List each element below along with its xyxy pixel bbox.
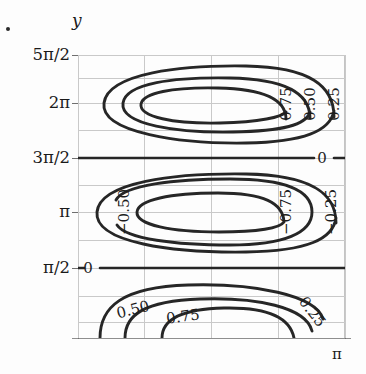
grid-line-vertical <box>345 55 346 338</box>
contour-label-middle-negative-lobe: −0.50 <box>117 189 132 235</box>
y-tick-label: 5π/2 <box>33 47 70 64</box>
y-tick-label: π/2 <box>43 260 70 277</box>
contour-lower-0.50 <box>125 299 312 338</box>
contour-label-zero: 0 <box>83 261 93 276</box>
contour-middle-neg0.25 <box>97 174 336 252</box>
y-axis-title: y <box>72 12 82 29</box>
contour-label-zero: 0 <box>317 151 327 166</box>
contour-label-lower-positive-lobe: 0.75 <box>165 307 200 327</box>
contour-label-upper-positive-lobe: 0.25 <box>327 87 342 120</box>
contour-upper-0.75 <box>141 88 286 123</box>
y-tick-label: π <box>59 204 70 221</box>
plot-area: 0.750.500.25−0.50−0.75−0.250.500.750.250… <box>78 55 345 338</box>
contour-label-middle-negative-lobe: −0.75 <box>279 189 294 235</box>
y-tick-label: 2π <box>49 95 70 112</box>
x-axis-spine <box>72 338 351 339</box>
contour-label-upper-positive-lobe: 0.50 <box>303 87 318 120</box>
contour-label-upper-positive-lobe: 0.75 <box>279 87 294 120</box>
y-tick-label-column: 5π/22π3π/2ππ/2 <box>0 0 70 374</box>
contour-middle-neg0.75 <box>137 193 284 232</box>
x-axis-title: π <box>332 347 342 362</box>
contour-label-middle-negative-lobe: −0.25 <box>324 189 339 235</box>
contour-plot-figure: y π 5π/22π3π/2ππ/2 <box>0 0 366 374</box>
y-tick-label: 3π/2 <box>33 150 70 167</box>
